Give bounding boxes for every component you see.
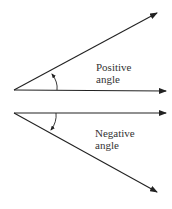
positive-terminal-ray: [14, 13, 157, 90]
positive-initial-ray: [14, 90, 166, 91]
positive-label-line2: angle: [96, 73, 131, 85]
angle-diagram: Positive angle Negative angle: [0, 0, 172, 209]
angle-diagram-graphics: [0, 0, 172, 209]
negative-label-line1: Negative: [95, 127, 135, 139]
positive-angle-figure: [14, 13, 166, 91]
negative-angle-arc-icon: [51, 113, 56, 130]
negative-terminal-ray: [14, 113, 157, 192]
negative-angle-label: Negative angle: [95, 127, 135, 151]
positive-angle-label: Positive angle: [96, 61, 131, 85]
positive-label-line1: Positive: [96, 61, 131, 73]
negative-label-line2: angle: [95, 139, 135, 151]
positive-angle-arc-icon: [52, 74, 57, 90]
negative-angle-figure: [14, 113, 166, 192]
